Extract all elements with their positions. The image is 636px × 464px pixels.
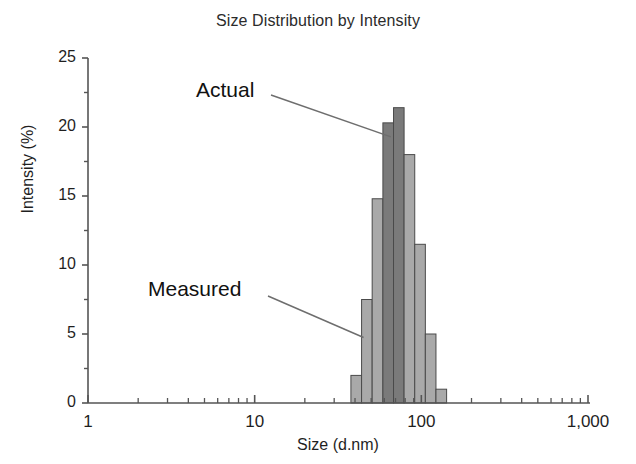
bar bbox=[351, 375, 362, 403]
annotation-actual: Actual bbox=[196, 78, 254, 102]
y-tick-label: 25 bbox=[36, 48, 76, 66]
y-tick-label: 20 bbox=[36, 117, 76, 135]
chart-title: Size Distribution by Intensity bbox=[0, 12, 636, 30]
bar bbox=[415, 244, 426, 403]
y-tick-label: 0 bbox=[36, 393, 76, 411]
bar bbox=[436, 389, 447, 403]
axes-group bbox=[82, 58, 590, 403]
annotation-leader-line bbox=[271, 95, 391, 137]
x-tick-label: 10 bbox=[215, 412, 295, 432]
y-tick-label: 15 bbox=[36, 186, 76, 204]
bar bbox=[404, 155, 415, 403]
annotation-measured: Measured bbox=[148, 277, 241, 301]
bar bbox=[425, 334, 436, 403]
y-tick-label: 10 bbox=[36, 255, 76, 273]
chart-figure: Size Distribution by Intensity Intensity… bbox=[0, 0, 636, 464]
plot-area bbox=[0, 0, 636, 464]
x-tick-label: 1,000 bbox=[548, 412, 628, 432]
x-tick-label: 1 bbox=[48, 412, 128, 432]
x-axis-label: Size (d.nm) bbox=[88, 436, 588, 454]
bar bbox=[372, 199, 383, 403]
bar bbox=[362, 300, 373, 404]
x-tick-label: 100 bbox=[381, 412, 461, 432]
y-axis-label: Intensity (%) bbox=[19, 79, 37, 259]
bar bbox=[383, 123, 394, 403]
bars-group bbox=[351, 108, 447, 403]
y-tick-label: 5 bbox=[36, 324, 76, 342]
bar bbox=[394, 108, 405, 403]
annotation-leader-line bbox=[268, 296, 364, 338]
